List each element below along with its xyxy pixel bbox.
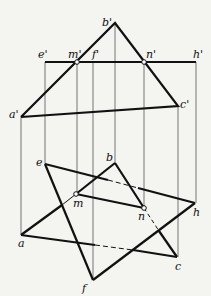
label-b: b — [106, 151, 113, 164]
edge-ac-a — [21, 235, 95, 245]
label-a-prime: a' — [9, 108, 19, 121]
line-mn — [76, 194, 144, 208]
label-b-prime: b' — [102, 16, 112, 29]
label-n-prime: n' — [146, 48, 156, 61]
edge-ef — [45, 164, 93, 280]
edge-eh-a — [45, 164, 108, 180]
label-e-prime: e' — [38, 48, 48, 61]
label-h: h — [193, 206, 200, 219]
edge-nc-dashed — [144, 208, 159, 231]
label-m: m — [73, 197, 83, 210]
label-f: f — [81, 282, 88, 295]
label-m-prime: m' — [68, 48, 81, 61]
label-h-prime: h' — [193, 48, 203, 61]
label-e: e — [36, 156, 43, 169]
edge-ac-b — [133, 250, 177, 257]
edge-mb — [76, 163, 115, 194]
label-a: a — [18, 237, 25, 250]
edge-eh-dashed — [108, 180, 138, 188]
front-view — [21, 23, 196, 117]
edge-ab-solid — [21, 205, 62, 235]
point-m — [74, 192, 79, 197]
edge-bn — [115, 163, 144, 208]
label-c: c — [175, 260, 181, 273]
triangle-abc-front — [21, 23, 178, 117]
top-view — [21, 163, 195, 280]
edge-ac-dashed — [95, 245, 133, 250]
label-c-prime: c' — [180, 98, 189, 111]
edge-nc-solid — [159, 231, 177, 257]
label-f-prime: f' — [91, 48, 99, 61]
edge-eh-b — [138, 188, 195, 203]
projection-diagram: b' e' m' f' n' h' c' a' e b m n h a c f — [0, 0, 211, 296]
label-n: n — [138, 210, 145, 223]
